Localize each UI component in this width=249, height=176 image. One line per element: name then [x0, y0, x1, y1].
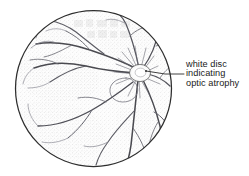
optic-disc	[130, 64, 151, 81]
fundus-figure: white disc indicating optic atrophy	[0, 0, 249, 176]
annotation-line-3: optic atrophy	[186, 79, 239, 89]
fundus-body	[16, 10, 173, 167]
optic-disc-cup	[135, 68, 146, 77]
